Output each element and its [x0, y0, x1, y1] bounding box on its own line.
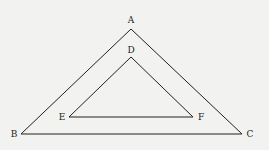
vertex-label-a: A — [127, 15, 135, 25]
vertex-label-e: E — [59, 112, 66, 122]
diagram-canvas: A B C D E F — [0, 0, 269, 150]
vertex-label-d: D — [127, 45, 134, 55]
vertex-label-c: C — [247, 129, 254, 139]
triangles-figure: A B C D E F — [0, 0, 269, 150]
vertex-label-f: F — [198, 112, 204, 122]
vertex-label-b: B — [11, 129, 18, 139]
inner-triangle-def — [69, 57, 193, 117]
